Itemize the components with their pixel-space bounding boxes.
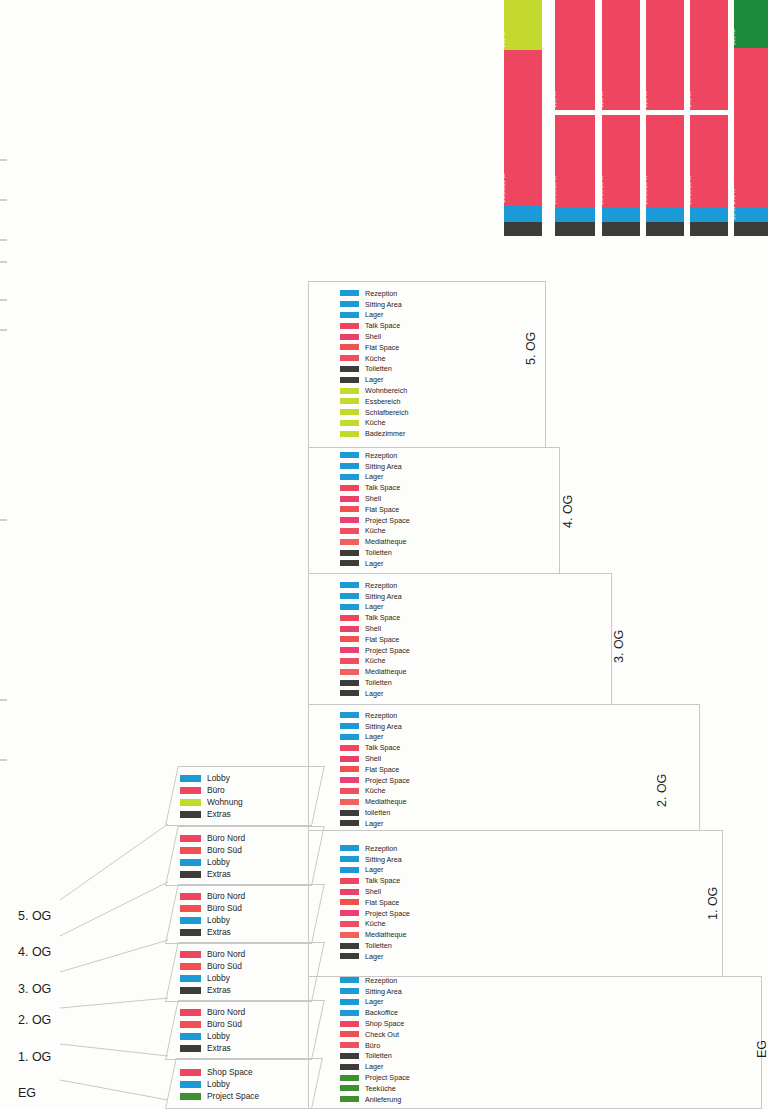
legend-item-label: Lager [365, 690, 383, 697]
legend-swatch-icon [340, 420, 359, 426]
legend-swatch-icon [340, 932, 359, 938]
legend-swatch-icon [340, 988, 359, 994]
bar-segment: 220 m² [646, 0, 684, 110]
legend-swatch-icon [340, 867, 359, 873]
legend-swatch-icon [340, 1064, 359, 1070]
bar-segment: 340 m² [690, 0, 728, 110]
bar-segment [690, 222, 728, 236]
legend-swatch-icon [340, 999, 359, 1005]
legend-item: Flat Space [340, 764, 410, 775]
legend-group-3og: RezeptionSitting AreaLagerTalk SpaceShel… [340, 580, 410, 699]
legend-swatch-icon [340, 355, 359, 361]
legend-item-label: Küche [365, 527, 385, 534]
zone-legend-group-5og: LobbyBüroWohnungExtras [180, 772, 243, 820]
legend-item: Küche [340, 919, 410, 930]
legend-item: Shop Space [180, 1066, 259, 1078]
legend-item: Project Space [340, 515, 410, 526]
legend-swatch-icon [340, 1075, 359, 1081]
legend-item-label: Küche [365, 355, 385, 362]
legend-item-label: Flat Space [365, 636, 399, 643]
legend-item-label: Toiletten [365, 679, 392, 686]
legend-item-label: Lager [365, 560, 383, 567]
legend-item: Project Space [340, 775, 410, 786]
legend-swatch-icon [340, 604, 359, 610]
legend-item: Wohnbereich [340, 385, 409, 396]
legend-item: Backoffice [340, 1007, 410, 1018]
legend-item: Büro [340, 1040, 410, 1051]
legend-swatch-icon [340, 388, 359, 394]
legend-item-label: Flat Space [365, 506, 399, 513]
floor-label-5og: 5. OG [18, 909, 51, 923]
legend-item: Lager [340, 310, 409, 321]
bar-segment [646, 207, 684, 222]
legend-item: Toiletten [340, 677, 410, 688]
legend-item-label: Shop Space [207, 1068, 253, 1076]
legend-swatch-icon [180, 917, 201, 924]
bar-segment: 20/20/20 m² [504, 50, 542, 205]
floor-label-2og: 2. OG [18, 1013, 51, 1027]
legend-item: Toiletten [340, 547, 410, 558]
legend-item: Rezeption [340, 975, 410, 986]
legend-item-label: Extras [207, 1044, 231, 1052]
legend-item: Talk Space [340, 482, 410, 493]
legend-swatch-icon [340, 452, 359, 458]
legend-item: Wohnung [180, 796, 243, 808]
legend-swatch-icon [340, 810, 359, 816]
legend-item-label: Schlafbereich [365, 409, 409, 416]
legend-item-label: Lager [365, 733, 383, 740]
legend-swatch-icon [180, 963, 201, 970]
legend-item: Lobby [180, 972, 245, 984]
legend-swatch-icon [180, 799, 201, 806]
legend-item: Talk Space [340, 320, 409, 331]
bar-segment-label: 100 m² [504, 29, 506, 47]
legend-item: Mediatheque [340, 666, 410, 677]
legend-item: Badezimmer [340, 428, 409, 439]
legend-item: Küche [340, 656, 410, 667]
bar-segment [555, 207, 595, 222]
legend-swatch-icon [180, 905, 201, 912]
legend-item: Flat Space [340, 342, 409, 353]
legend-swatch-icon [340, 669, 359, 675]
legend-item: Lobby [180, 914, 245, 926]
legend-item-label: Rezeption [365, 582, 397, 589]
legend-swatch-icon [340, 745, 359, 751]
legend-item-label: Lobby [207, 1032, 230, 1040]
legend-item-label: Büro [365, 1042, 380, 1049]
legend-item-label: Mediatheque [365, 538, 407, 545]
legend-item: toiletten [340, 807, 410, 818]
legend-item-label: Rezeption [365, 845, 397, 852]
floor-label-4og: 4. OG [18, 945, 51, 959]
legend-item-label: Rezeption [365, 712, 397, 719]
legend-item-label: Toiletten [365, 549, 392, 556]
legend-item-label: Talk Space [365, 744, 400, 751]
legend-swatch-icon [180, 859, 201, 866]
floor-label-1og: 1. OG [18, 1050, 51, 1064]
legend-item: Shell [340, 493, 410, 504]
legend-item: Mediatheque [340, 536, 410, 547]
bar-segment [602, 222, 640, 236]
legend-item-label: Flat Space [365, 344, 399, 351]
legend-item: Rezeption [340, 710, 410, 721]
bar-segment-label: 20/20/20 m² [646, 173, 648, 204]
bar-segment [690, 207, 728, 222]
legend-item-label: Talk Space [365, 614, 400, 621]
legend-item: Mediatheque [340, 929, 410, 940]
bar-segment: 340 m² [734, 48, 768, 207]
legend-swatch-icon [180, 1045, 201, 1052]
legend-swatch-icon [340, 431, 359, 437]
bar-segment-label: 20 m² [734, 207, 736, 219]
legend-item: Sitting Area [340, 461, 410, 472]
legend-item-label: Extras [207, 928, 231, 936]
legend-swatch-icon [180, 929, 201, 936]
legend-swatch-icon [340, 910, 359, 916]
legend-item: Sitting Area [340, 854, 410, 865]
legend-item-label: Wohnung [207, 798, 243, 806]
legend-swatch-icon [340, 377, 359, 383]
legend-item-label: Sitting Area [365, 988, 402, 995]
legend-item: Shell [340, 753, 410, 764]
legend-item: Büro [180, 784, 243, 796]
legend-swatch-icon [340, 953, 359, 959]
legend-item-label: Sitting Area [365, 301, 402, 308]
floor-label-eg: EG [18, 1086, 36, 1100]
